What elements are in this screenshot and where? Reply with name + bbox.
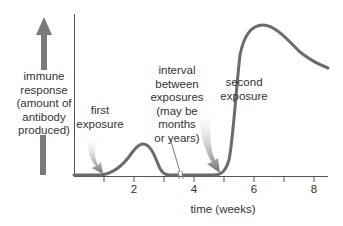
- x-tick-label: 8: [306, 183, 322, 195]
- annotation-line: (may be: [138, 105, 216, 119]
- annotation-line: between: [138, 78, 216, 92]
- y-label-line: antibody: [0, 111, 88, 125]
- y-axis-label: immune response (amount of antibody prod…: [0, 70, 88, 138]
- y-label-line: (amount of: [0, 97, 88, 111]
- up-arrow-icon: [36, 17, 52, 70]
- y-axis-bar: [40, 135, 46, 175]
- y-label-line: produced): [0, 124, 88, 138]
- first-exposure-label: first exposure: [76, 104, 124, 131]
- axis-break-icon: [178, 171, 183, 179]
- annotation-line: first: [76, 104, 124, 118]
- x-tick-label: 6: [246, 183, 262, 195]
- y-label-line: immune: [0, 70, 88, 84]
- annotation-line: exposures: [138, 91, 216, 105]
- x-axis-label: time (weeks): [168, 203, 278, 215]
- first-exposure-arrow-icon: [87, 134, 103, 174]
- second-exposure-label: second exposure: [214, 76, 274, 103]
- immune-response-diagram: immune response (amount of antibody prod…: [0, 0, 343, 226]
- annotation-line: exposure: [214, 90, 274, 104]
- annotation-line: or years): [138, 132, 216, 146]
- x-tick-label: 2: [126, 183, 142, 195]
- annotation-line: interval: [138, 64, 216, 78]
- annotation-line: months: [138, 118, 216, 132]
- y-label-line: response: [0, 84, 88, 98]
- x-tick-label: 4: [186, 183, 202, 195]
- interval-label: interval between exposures (may be month…: [138, 64, 216, 145]
- annotation-line: second: [214, 76, 274, 90]
- annotation-line: exposure: [76, 118, 124, 132]
